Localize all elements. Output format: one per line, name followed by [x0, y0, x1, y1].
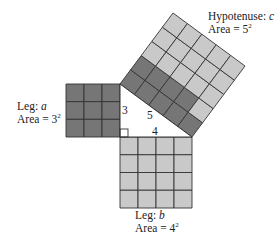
grid-cell	[120, 155, 138, 173]
grid-cell	[84, 84, 102, 102]
leg-b-square	[120, 137, 192, 208]
grid-cell	[174, 190, 192, 208]
grid-cell	[174, 173, 192, 191]
grid-cell	[138, 173, 156, 191]
grid-cell	[156, 173, 174, 191]
grid-cell	[66, 119, 84, 137]
grid-cell	[156, 137, 174, 155]
grid-cell	[102, 84, 120, 102]
grid-cell	[174, 155, 192, 173]
leg-a-square	[66, 84, 120, 137]
grid-cell	[120, 173, 138, 191]
grid-cell	[120, 137, 138, 155]
grid-cell	[120, 190, 138, 208]
leg-b-label: Leg: b Area = 42	[135, 209, 179, 235]
side-b-length: 4	[152, 125, 158, 137]
grid-cell	[156, 155, 174, 173]
grid-cell	[138, 190, 156, 208]
grid-cell	[66, 102, 84, 120]
grid-cell	[84, 102, 102, 120]
grid-cell	[174, 137, 192, 155]
side-c-length: 5	[147, 109, 153, 121]
leg-a-label: Leg: a Area = 32	[17, 100, 61, 126]
hypotenuse-label: Hypotenuse: c Area = 52	[208, 10, 274, 36]
grid-cell	[84, 119, 102, 137]
grid-cell	[66, 84, 84, 102]
grid-cell	[138, 155, 156, 173]
grid-cell	[102, 119, 120, 137]
side-a-length: 3	[122, 104, 128, 116]
grid-cell	[138, 137, 156, 155]
grid-cell	[156, 190, 174, 208]
grid-cell	[102, 102, 120, 120]
